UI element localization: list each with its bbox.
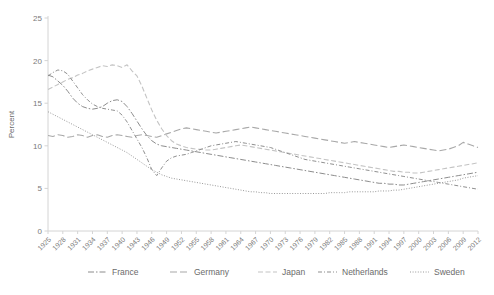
x-tick-label: 1970 xyxy=(259,236,275,252)
y-tick-label: 10 xyxy=(33,142,42,151)
x-tick-label: 1949 xyxy=(155,236,171,252)
chart-container: 0510152025 19251928193119341937194019431… xyxy=(0,0,494,295)
x-tick-label: 1934 xyxy=(81,236,97,252)
y-axis-title-text: Percent xyxy=(7,110,16,138)
x-tick-label: 1964 xyxy=(229,236,245,252)
chart-legend: FranceGermanyJapanNetherlandsSweden xyxy=(88,267,465,277)
x-tick-label: 1991 xyxy=(362,236,378,252)
series-line-japan xyxy=(48,65,478,173)
x-tick-label: 1925 xyxy=(36,236,52,252)
legend-label-netherlands: Netherlands xyxy=(342,267,388,277)
x-tick-label: 2009 xyxy=(451,236,467,252)
x-tick-label: 2012 xyxy=(466,236,482,252)
legend-label-germany: Germany xyxy=(194,267,230,277)
y-tick-label: 15 xyxy=(33,99,42,108)
x-tick-label: 1940 xyxy=(110,236,126,252)
legend-label-sweden: Sweden xyxy=(434,267,465,277)
series-layer xyxy=(48,65,478,194)
x-tick-label: 1973 xyxy=(273,236,289,252)
y-tick-label: 5 xyxy=(38,184,43,193)
x-tick-label: 1985 xyxy=(333,236,349,252)
x-tick-label: 1931 xyxy=(66,236,82,252)
x-tick-label: 1988 xyxy=(348,236,364,252)
x-tick-label: 2006 xyxy=(437,236,453,252)
x-tick-label: 1952 xyxy=(170,236,186,252)
x-tick-label: 1943 xyxy=(125,236,141,252)
line-chart: 0510152025 19251928193119341937194019431… xyxy=(0,0,494,295)
y-tick-label: 0 xyxy=(38,227,43,236)
x-tick-label: 1976 xyxy=(288,236,304,252)
x-tick-label: 2003 xyxy=(422,236,438,252)
legend-label-france: France xyxy=(112,267,139,277)
y-tick-label: 25 xyxy=(33,14,42,23)
x-tick-label: 1997 xyxy=(392,236,408,252)
x-tick-label: 2000 xyxy=(407,236,423,252)
legend-label-japan: Japan xyxy=(282,267,305,277)
x-tick-label: 1955 xyxy=(185,236,201,252)
series-line-sweden xyxy=(48,112,478,194)
x-tick-label: 1961 xyxy=(214,236,230,252)
x-tick-label: 1928 xyxy=(51,236,67,252)
y-axis-title: Percent xyxy=(7,110,16,138)
series-line-germany xyxy=(48,127,478,151)
x-tick-label: 1937 xyxy=(96,236,112,252)
x-tick-label: 1946 xyxy=(140,236,156,252)
x-tick-label: 1982 xyxy=(318,236,334,252)
y-tick-label: 20 xyxy=(33,57,42,66)
x-axis: 1925192819311934193719401943194619491952… xyxy=(36,231,482,252)
y-axis: 0510152025 xyxy=(33,14,48,236)
x-tick-label: 1994 xyxy=(377,236,393,252)
x-tick-label: 1967 xyxy=(244,236,260,252)
series-line-france xyxy=(48,75,478,185)
x-tick-label: 1979 xyxy=(303,236,319,252)
x-tick-label: 1958 xyxy=(199,236,215,252)
